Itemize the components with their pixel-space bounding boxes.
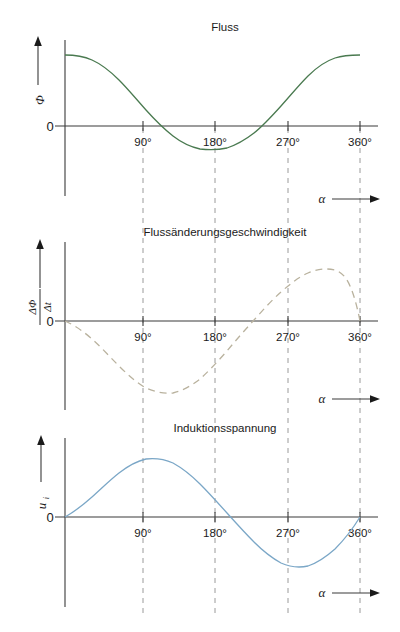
x-axis-arrow-head — [370, 195, 380, 203]
y-axis-arrow-head — [34, 36, 42, 46]
y-zero-label: 0 — [46, 314, 53, 329]
panel-flux-rate: Flussänderungsgeschwindigkeit ΔΦ Δt 0 90 — [26, 226, 380, 410]
y-axis-label-denominator: Δt — [41, 301, 53, 312]
panel-flux-rate-title: Flussänderungsgeschwindigkeit — [143, 226, 307, 238]
y-zero-label: 0 — [46, 510, 53, 525]
xtick-label-180: 180° — [203, 331, 227, 343]
x-axis-arrow-head — [370, 395, 380, 403]
x-axis-label-alpha: α — [319, 191, 327, 206]
xtick-label-90: 90° — [134, 136, 151, 148]
panel-flux-title: Fluss — [211, 21, 239, 33]
panel-induced-voltage-x-axis: 0 90° 180° 270° 360° — [46, 510, 378, 539]
xtick-label-90: 90° — [134, 331, 151, 343]
panel-flux-y-axis: Φ — [32, 36, 65, 196]
xtick-label-360: 360° — [348, 331, 372, 343]
panel-flux-rate-x-axis-label-group: α — [319, 391, 380, 406]
y-axis-label-phi: Φ — [32, 95, 47, 105]
panel-induced-voltage-x-axis-label-group: α — [319, 585, 380, 600]
x-axis-label-alpha: α — [319, 391, 327, 406]
induction-waveform-figure: Fluss Φ 0 90° 180° 270° 360° — [0, 0, 400, 632]
xtick-label-270: 270° — [276, 527, 300, 539]
panel-flux-x-axis-label-group: α — [319, 191, 380, 206]
y-axis-arrow-head — [36, 239, 44, 249]
panel-induced-voltage: Induktionsspannung u i 0 90° 180° 2 — [34, 422, 380, 607]
y-axis-label-u: u — [34, 502, 49, 509]
xtick-label-270: 270° — [276, 331, 300, 343]
y-zero-label: 0 — [46, 119, 53, 134]
panel-induced-voltage-title: Induktionsspannung — [174, 422, 277, 434]
xtick-label-270: 270° — [276, 136, 300, 148]
x-axis-arrow-head — [370, 589, 380, 597]
y-axis-arrow-head — [37, 435, 45, 445]
curve-induced-voltage — [65, 459, 360, 567]
y-axis-label-numerator: ΔΦ — [26, 299, 38, 315]
panel-flux: Fluss Φ 0 90° 180° 270° 360° — [32, 21, 380, 206]
xtick-label-180: 180° — [203, 527, 227, 539]
x-axis-label-alpha: α — [319, 585, 327, 600]
panel-flux-rate-x-axis: 0 90° 180° 270° 360° — [46, 314, 378, 343]
xtick-label-180: 180° — [203, 136, 227, 148]
figure-canvas: Fluss Φ 0 90° 180° 270° 360° — [0, 0, 400, 632]
panel-flux-x-axis: 0 90° 180° 270° 360° — [46, 119, 378, 148]
gridlines-global — [143, 128, 360, 615]
xtick-label-90: 90° — [134, 527, 151, 539]
xtick-label-360: 360° — [348, 136, 372, 148]
y-axis-label-subscript-i: i — [42, 497, 51, 499]
y-axis-label-ui: u i — [34, 497, 51, 509]
